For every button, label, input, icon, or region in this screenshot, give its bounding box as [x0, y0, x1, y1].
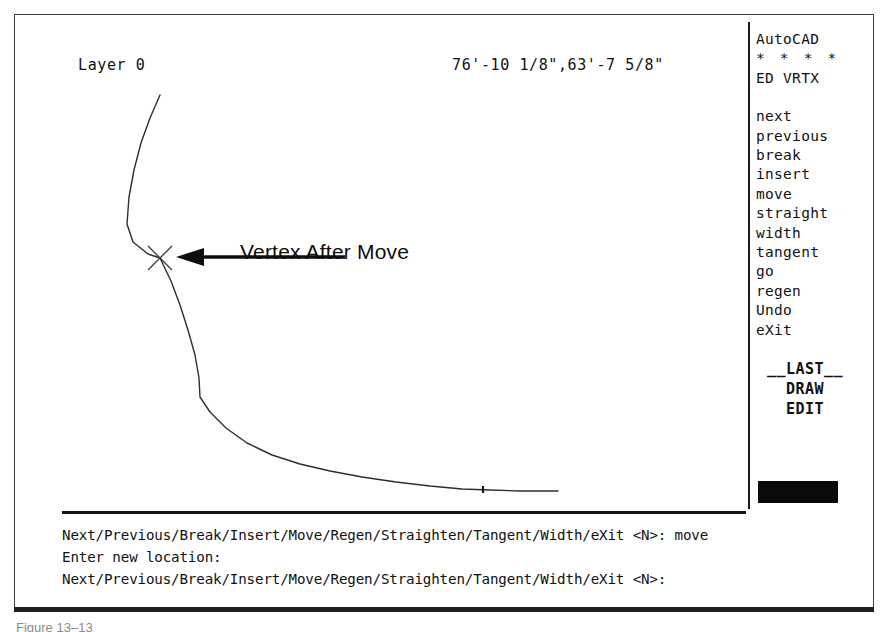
menu-item-regen[interactable]: regen — [756, 282, 866, 301]
menu-item-width[interactable]: width — [756, 224, 866, 243]
drawing-area[interactable]: Layer 0 76'-10 1/8",63'-7 5/8" — [20, 20, 746, 605]
command-line: Enter new location: — [62, 546, 762, 568]
menu-item-break[interactable]: break — [756, 146, 866, 165]
autocad-screenshot-figure: Layer 0 76'-10 1/8",63'-7 5/8" Vertex Af… — [0, 0, 892, 632]
frame-shadow-bottom — [14, 607, 874, 612]
side-menu-stars: * * * * — [756, 49, 866, 68]
menu-item-tangent[interactable]: tangent — [756, 243, 866, 262]
menu-highlight-bar[interactable] — [758, 481, 838, 503]
command-separator-rule — [62, 511, 746, 514]
menu-item-next[interactable]: next — [756, 107, 866, 126]
menu-item-undo[interactable]: Undo — [756, 301, 866, 320]
figure-caption: Figure 13–13 — [16, 620, 93, 632]
command-prompt-area[interactable]: Next/Previous/Break/Insert/Move/Regen/St… — [62, 524, 762, 590]
menu-item-edit[interactable]: EDIT — [756, 399, 854, 419]
menu-item-move[interactable]: move — [756, 185, 866, 204]
menu-item-insert[interactable]: insert — [756, 165, 866, 184]
layer-indicator: Layer 0 — [78, 56, 145, 74]
side-menu-divider — [748, 22, 750, 509]
menu-spacer — [756, 88, 866, 107]
command-line-active[interactable]: Next/Previous/Break/Insert/Move/Regen/St… — [62, 568, 762, 590]
side-menu-title: AutoCAD — [756, 30, 866, 49]
coordinate-readout: 76'-10 1/8",63'-7 5/8" — [452, 56, 664, 74]
side-menu-footer[interactable]: __LAST__ DRAW EDIT — [756, 359, 866, 419]
menu-spacer — [756, 340, 866, 359]
menu-item-draw[interactable]: DRAW — [756, 379, 854, 399]
menu-item-last[interactable]: __LAST__ — [756, 359, 854, 379]
menu-item-go[interactable]: go — [756, 262, 866, 281]
menu-item-exit[interactable]: eXit — [756, 321, 866, 340]
menu-item-straight[interactable]: straight — [756, 204, 866, 223]
vertex-annotation-label: Vertex After Move — [240, 240, 409, 264]
command-line: Next/Previous/Break/Insert/Move/Regen/St… — [62, 524, 762, 546]
side-menu-mode-label: ED VRTX — [756, 69, 866, 88]
menu-item-previous[interactable]: previous — [756, 127, 866, 146]
side-screen-menu[interactable]: AutoCAD * * * * ED VRTX next previous br… — [756, 30, 866, 419]
